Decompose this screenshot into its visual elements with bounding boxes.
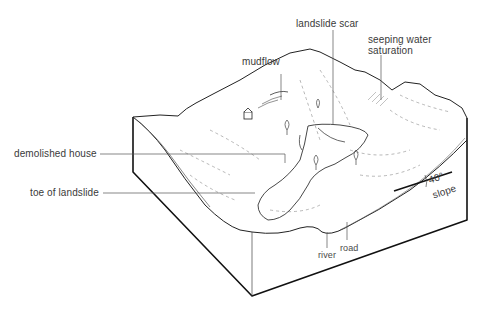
label-mudflow: mudflow — [242, 56, 280, 67]
label-landslide-scar: landslide scar — [296, 18, 359, 29]
leader-demolished-house — [100, 154, 285, 163]
label-river: river — [318, 250, 336, 261]
mudflow-shape — [258, 91, 288, 108]
block-outline — [133, 117, 467, 296]
label-saturation: saturation — [368, 45, 413, 56]
landslide-scar-shape — [258, 124, 368, 220]
label-toe-of-landslide: toe of landslide — [30, 187, 99, 198]
landslide-block-diagram: landslide scar seeping water saturation … — [0, 0, 483, 309]
label-road: road — [340, 243, 358, 254]
house-icon — [244, 108, 252, 119]
leader-lines — [100, 30, 381, 248]
label-seeping-water: seeping water — [368, 34, 432, 45]
seeping-water-hatch — [368, 92, 388, 106]
terrain-profile — [133, 49, 467, 296]
label-demolished-house: demolished house — [14, 148, 97, 159]
tree-icons — [285, 99, 358, 170]
